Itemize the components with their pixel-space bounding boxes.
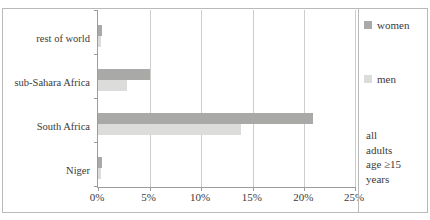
legend-label-women: women [377,19,409,31]
plot-area [97,10,355,188]
bar-men-niger [98,168,101,179]
legend-swatch-icon-women [364,21,372,29]
bar-women-rest-of-world [98,25,102,36]
xticklabel-20: 20% [293,190,313,204]
bar-men-south-africa [98,124,241,135]
legend-item-women[interactable]: women [364,19,409,31]
bar-women-niger [98,157,102,168]
note-line-2: adults [366,143,428,158]
category-label-rest-of-world: rest of world [2,33,90,45]
gridline-25 [355,10,356,187]
x-axis-tick-labels: 0% 5% 10% 15% 20% 25% [97,190,355,208]
ytick-top [94,10,98,11]
gridline-10 [201,10,202,187]
ytick-1 [94,54,98,55]
note-line-1: all [366,128,428,143]
category-label-sub-sahara-africa: sub-Sahara Africa [2,77,90,89]
legend-label-men: men [377,73,396,85]
bar-women-south-africa [98,113,313,124]
category-label-south-africa: South Africa [2,121,90,133]
chart-legend: women men [362,10,428,110]
ytick-2 [94,98,98,99]
legend-swatch-icon-men [364,75,372,83]
xticklabel-0: 0% [90,190,105,204]
legend-divider [358,9,359,212]
ytick-3 [94,142,98,143]
chart-figure: rest of world sub-Sahara Africa South Af… [0,0,430,220]
gridline-5 [150,10,151,187]
category-label-niger: Niger [2,165,90,177]
bar-men-rest-of-world [98,36,101,47]
clipped-title [150,0,360,8]
xticklabel-5: 5% [141,190,156,204]
note-line-4: years [366,172,428,187]
note-line-3: age ≥15 [366,157,428,172]
xticklabel-25: 25% [344,190,364,204]
category-axis-labels: rest of world sub-Sahara Africa South Af… [4,10,94,188]
bar-men-sub-sahara-africa [98,80,127,91]
xticklabel-15: 15% [242,190,262,204]
ytick-bottom [94,186,98,187]
legend-item-men[interactable]: men [364,73,396,85]
chart-note: all adults age ≥15 years [366,128,428,186]
xticklabel-10: 10% [190,190,210,204]
bar-women-sub-sahara-africa [98,69,150,80]
gridline-15 [253,10,254,187]
gridline-20 [304,10,305,187]
